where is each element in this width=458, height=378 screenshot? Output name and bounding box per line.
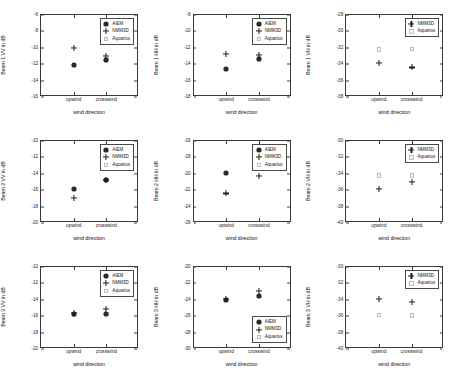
y-tick-mark [287,157,290,158]
nmm3d-marker [376,60,382,66]
legend-item: NMM3D [103,28,130,34]
legend-item: NMM3D [255,154,282,160]
y-tick-mark [440,31,443,32]
legend-label: AIEM [265,22,276,27]
y-tick-label: -12 [31,155,38,160]
y-tick-label: -14 [31,298,38,303]
y-tick-label: -36 [337,188,344,193]
legend-label: AIEM [112,274,123,279]
y-tick-mark [41,141,44,142]
legend-item: Aquarius [103,162,130,168]
x-tick-label: upwind [219,98,234,103]
legend-label: NMM3D [417,148,434,153]
x-tick-mark [412,344,413,347]
y-tick-label: -24 [184,204,191,209]
y-tick-mark [440,15,443,16]
y-tick-mark [346,15,349,16]
legend-item: NMM3D [255,28,282,34]
y-tick-label: -34 [337,298,344,303]
y-tick-label: -16 [184,139,191,144]
y-tick-mark [440,173,443,174]
y-tick-mark [346,64,349,65]
y-tick-mark [287,299,290,300]
y-tick-mark [346,349,349,350]
y-tick-mark [194,97,197,98]
y-tick-mark [134,299,137,300]
chart-panel: Beam 2 HH in dBwind direction-16-18-20-2… [153,126,306,252]
x-tick-mark [379,344,380,347]
y-tick-mark [440,141,443,142]
x-tick-mark [74,267,75,270]
y-axis-label: Beam 3 HH in dB [154,287,159,327]
x-tick-mark [226,15,227,18]
legend-label: Aquarius [417,281,435,286]
y-tick-mark [194,206,197,207]
y-tick-mark [41,15,44,16]
x-tick-label: crosswind [96,350,117,355]
legend-label: Aquarius [112,37,130,42]
aquarius-marker [377,173,381,177]
x-tick-label: upwind [219,350,234,355]
legend-item: AIEM [255,319,282,325]
aiem-marker [103,147,110,153]
x-axis-label: wind direction [73,362,105,367]
x-tick-mark [106,92,107,95]
y-tick-mark [287,223,290,224]
aquarius-marker [377,47,381,51]
legend-item: Aquarius [408,154,435,160]
y-tick-label: -8 [34,29,38,34]
legend-label: Aquarius [112,163,130,168]
y-tick-label: -28 [337,13,344,18]
aquarius-marker [103,162,110,168]
plot-area: -16-18-20-22-24-26upwindcrosswindAIEMNMM… [193,140,291,222]
nmm3d-marker [408,273,415,279]
y-tick-label: -16 [31,314,38,319]
y-tick-mark [287,47,290,48]
legend-label: NMM3D [417,22,434,27]
y-tick-label: -22 [184,188,191,193]
y-tick-mark [287,267,290,268]
x-axis-label: wind direction [378,362,410,367]
y-tick-label: -16 [31,95,38,100]
legend-item: AIEM [103,273,130,279]
chart-panel: Beam 1 VH in dBwind direction-28-30-32-3… [305,0,458,126]
y-tick-label: -10 [184,29,191,34]
y-tick-mark [287,206,290,207]
y-tick-mark [134,31,137,32]
y-tick-mark [134,267,137,268]
plot-area: -10-12-14-16-18-20upwindcrosswindAIEMNMM… [40,266,138,348]
nmm3d-marker [376,186,382,192]
y-tick-label: -38 [337,95,344,100]
nmm3d-marker [103,53,109,59]
y-tick-label: -6 [34,13,38,18]
y-tick-mark [440,267,443,268]
y-tick-mark [41,223,44,224]
y-tick-mark [41,47,44,48]
y-tick-mark [287,190,290,191]
plot-area: -10-12-14-16-18-20upwindcrosswindAIEMNMM… [40,140,138,222]
chart-panel: Beam 2 VV in dBwind direction-10-12-14-1… [0,126,153,252]
legend-item: NMM3D [103,280,130,286]
y-tick-label: -30 [337,29,344,34]
legend-item: Aquarius [255,334,282,340]
legend-item: AIEM [103,147,130,153]
figure-panel-grid: Beam 1 VV in dBwind direction-6-8-10-12-… [0,0,458,378]
nmm3d-marker [71,45,77,51]
y-tick-label: -30 [337,265,344,270]
y-tick-mark [287,141,290,142]
x-tick-label: upwind [371,350,386,355]
nmm3d-marker [223,190,229,196]
y-tick-mark [194,283,197,284]
y-tick-label: -30 [184,347,191,352]
legend-item: NMM3D [255,327,282,333]
x-tick-mark [259,218,260,221]
x-tick-mark [412,92,413,95]
y-tick-mark [134,64,137,65]
legend-label: Aquarius [417,29,435,34]
x-tick-label: crosswind [401,224,422,229]
nmm3d-marker [223,296,229,302]
y-axis-label: Beam 2 VH in dB [307,161,312,201]
y-tick-label: -16 [31,188,38,193]
y-tick-mark [346,332,349,333]
x-tick-mark [259,344,260,347]
